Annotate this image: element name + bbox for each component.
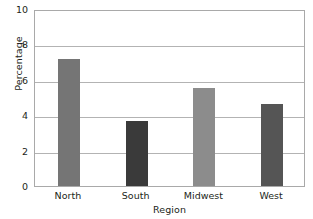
- y-axis-tick-labels: 0246810: [0, 0, 32, 219]
- y-tick-label: 4: [22, 111, 28, 121]
- bar: [261, 104, 283, 186]
- x-tick-label: South: [102, 190, 170, 202]
- bar: [193, 88, 215, 186]
- x-tick-label: Midwest: [170, 190, 238, 202]
- x-tick-label: North: [34, 190, 102, 202]
- x-axis-title: Region: [34, 204, 305, 215]
- bar: [58, 59, 80, 186]
- y-tick-label: 6: [22, 76, 28, 86]
- y-tick-label: 0: [22, 182, 28, 192]
- x-tick-label: West: [237, 190, 305, 202]
- bars-layer: [35, 11, 304, 186]
- plot-area: [34, 10, 305, 187]
- y-tick-label: 10: [16, 5, 28, 15]
- bar: [126, 121, 148, 186]
- y-tick-label: 8: [22, 40, 28, 50]
- x-axis-tick-labels: NorthSouthMidwestWest: [34, 190, 305, 204]
- bar-chart-figure: Percentage 0246810 NorthSouthMidwestWest…: [0, 0, 313, 219]
- y-tick-label: 2: [22, 147, 28, 157]
